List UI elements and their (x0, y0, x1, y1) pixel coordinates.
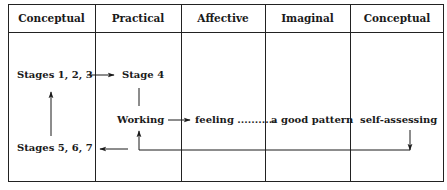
diagram-arrows (0, 0, 447, 190)
